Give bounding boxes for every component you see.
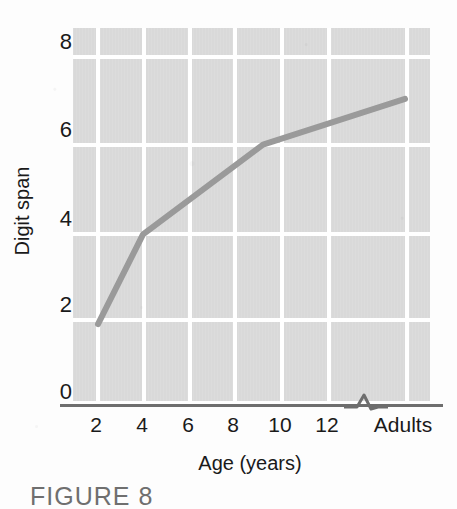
y-tick-label-6: 6 (46, 119, 72, 141)
gridline-horizontal-2 (73, 318, 430, 322)
y-tick-label-0: 0 (46, 381, 72, 403)
gridline-vertical-6 (188, 28, 192, 405)
y-tick-label-8: 8 (46, 31, 72, 53)
panel-texture (73, 28, 430, 405)
gridline-vertical-4 (142, 28, 146, 405)
gridline-vertical-2 (96, 28, 100, 405)
plot-area (73, 28, 430, 405)
x-tick-label-12: 12 (305, 414, 349, 436)
gridline-horizontal-8 (73, 55, 430, 59)
x-tick-label-4: 4 (122, 414, 162, 436)
y-tick-label-4: 4 (46, 208, 72, 230)
gridline-horizontal-6 (73, 143, 430, 147)
x-tick-label-8: 8 (213, 414, 253, 436)
x-tick-label-6: 6 (168, 414, 208, 436)
figure-caption: FIGURE 8 (30, 482, 153, 509)
x-tick-label-10: 10 (258, 414, 302, 436)
x-tick-label-adults: Adults (348, 414, 457, 436)
gridline-vertical-adults (405, 28, 409, 405)
x-tick-label-2: 2 (76, 414, 116, 436)
axis-break-icon (344, 390, 388, 412)
gridline-horizontal-4 (73, 232, 430, 236)
y-tick-label-2: 2 (46, 294, 72, 316)
gridline-vertical-8 (233, 28, 237, 405)
gridline-vertical-12 (327, 28, 331, 405)
x-axis-title: Age (years) (157, 452, 343, 474)
y-axis-title: Digit span (11, 141, 33, 281)
gridline-vertical-10 (280, 28, 284, 405)
